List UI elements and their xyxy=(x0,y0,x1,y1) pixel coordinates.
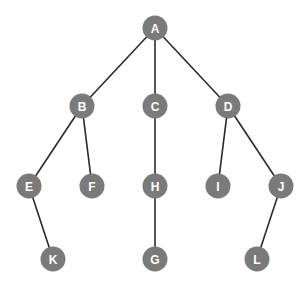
node-k: K xyxy=(41,247,66,272)
node-a: A xyxy=(143,16,168,41)
edges-layer xyxy=(29,28,281,259)
node-label: G xyxy=(150,253,159,267)
node-l: L xyxy=(245,247,270,272)
tree-canvas: ABCDEFHIJKGL xyxy=(0,0,308,289)
node-label: A xyxy=(151,22,160,36)
node-label: I xyxy=(216,180,219,194)
edge-b-e xyxy=(29,106,82,186)
node-h: H xyxy=(143,174,168,199)
edge-a-b xyxy=(82,28,155,106)
node-label: H xyxy=(151,180,160,194)
edge-d-j xyxy=(228,106,281,186)
node-j: J xyxy=(269,174,294,199)
node-b: B xyxy=(70,94,95,119)
node-d: D xyxy=(216,94,241,119)
node-e: E xyxy=(17,174,42,199)
node-g: G xyxy=(143,247,168,272)
node-i: I xyxy=(206,174,231,199)
node-label: J xyxy=(278,180,285,194)
node-f: F xyxy=(80,174,105,199)
edge-a-d xyxy=(155,28,228,106)
tree-diagram: ABCDEFHIJKGL xyxy=(0,0,308,289)
node-c: C xyxy=(143,94,168,119)
node-label: B xyxy=(78,100,87,114)
node-label: K xyxy=(49,253,58,267)
node-label: C xyxy=(151,100,160,114)
node-label: L xyxy=(253,253,260,267)
node-label: F xyxy=(88,180,95,194)
node-label: D xyxy=(224,100,233,114)
node-label: E xyxy=(25,180,33,194)
